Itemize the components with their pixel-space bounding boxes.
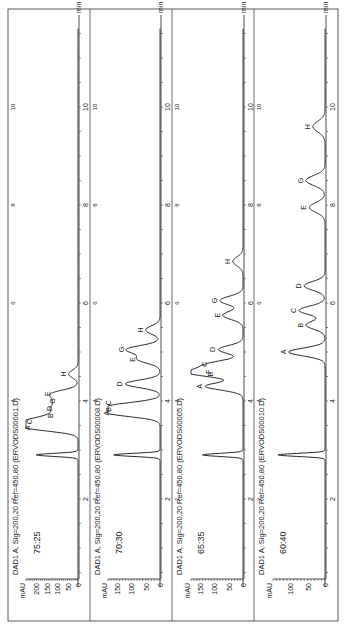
x-tick-label: 8 [329,203,336,207]
x-tick-label: 10 [82,103,89,111]
panel-title: DAD1 A, Sig=200,20 Ref=450,80 (ERVODS000… [175,397,184,575]
y-tick-label: 50 [305,583,312,591]
x-tick-label: 4 [82,399,89,403]
peak-label: E [129,357,136,362]
y-tick-label: 150 [44,583,51,595]
chromatogram-trace [108,29,160,588]
peak-label: A [280,349,287,354]
x-tick-label: 10 [164,103,171,111]
chromatogram-panel-3: 050100150mAU224466881010minABFCDEGHDAD1 … [172,2,254,621]
y-tick-label: 0 [157,583,164,587]
x-tick-label: 10 [247,103,254,111]
chromatogram-trace [191,29,243,588]
peak-label: E [44,391,51,396]
x-tick-label: 8 [164,203,171,207]
chromatogram-panel-4: 050100mAU224466881010minABCDEGHDAD1 A, S… [254,2,336,621]
peak-label: D [209,347,216,352]
svg-text:8: 8 [92,203,98,207]
y-axis-label: mAU [101,583,108,599]
y-tick-label: 150 [114,583,121,595]
peak-label: H [60,372,67,377]
chromatogram-trace [278,29,325,588]
x-tick-label: 6 [82,301,89,305]
peak-label: C [290,308,297,313]
x-axis-unit: min [322,2,329,13]
y-tick-label: 100 [211,583,218,595]
x-tick-label: 2 [164,497,171,501]
svg-text:10: 10 [256,103,262,110]
peak-label: D [46,406,53,411]
peak-label: H [137,327,144,332]
x-tick-label: 8 [82,203,89,207]
peak-label: G [297,178,304,183]
svg-text:10: 10 [174,103,180,110]
x-axis-unit: min [75,2,82,13]
y-tick-label: 50 [143,583,150,591]
x-tick-label: 6 [329,301,336,305]
x-tick-label: 2 [82,497,89,501]
chromatogram-panel-1: 050100150200mAU224466881010minACBDGEHDAD… [10,2,89,599]
solvent-ratio-label: 60:40 [278,531,288,554]
y-tick-label: 0 [75,583,82,587]
x-axis-unit: min [240,2,247,13]
solvent-ratio-label: 75:25 [32,531,42,554]
y-axis-label: mAU [19,583,26,599]
peak-label: H [304,124,311,129]
y-tick-label: 100 [287,583,294,595]
solvent-ratio-label: 70:30 [114,531,124,554]
peak-label: F [205,369,212,373]
peak-label: C [26,419,33,424]
peak-label: H [224,259,231,264]
peak-label: D [295,283,302,288]
y-tick-label: 0 [240,583,247,587]
y-axis-label: mAU [266,583,273,599]
svg-text:8: 8 [256,203,262,207]
x-tick-label: 8 [247,203,254,207]
svg-text:8: 8 [174,203,180,207]
y-tick-label: 0 [322,583,329,587]
peak-label: B [297,322,304,327]
peak-label: D [116,381,123,386]
svg-text:6: 6 [92,301,98,305]
chromatogram-trace [26,29,78,588]
svg-text:10: 10 [10,103,16,110]
x-axis-unit: min [157,2,164,13]
panel-title: DAD1 A, Sig=200,20 Ref=450,80 (ERVODS000… [11,397,20,575]
y-tick-label: 100 [54,583,61,595]
y-tick-label: 200 [33,583,40,595]
chromatogram-panel-2: 050100150mAU224466881010minAB,CDEGHDAD1 … [90,2,171,621]
svg-text:6: 6 [10,301,16,305]
x-tick-label: 6 [164,301,171,305]
x-tick-label: 4 [329,399,336,403]
peak-label: G [211,298,218,303]
svg-text:10: 10 [92,103,98,110]
chromatogram-figure: 050100150200mAU224466881010minACBDGEHDAD… [0,0,351,629]
figure-border [8,9,338,621]
peak-label: A [196,384,203,389]
svg-text:6: 6 [174,301,180,305]
svg-text:8: 8 [10,203,16,207]
peak-label: A [24,425,31,430]
y-tick-label: 50 [226,583,233,591]
peak-label: G [118,347,125,352]
y-tick-label: 100 [128,583,135,595]
y-axis-label: mAU [184,583,191,599]
y-tick-label: 150 [197,583,204,595]
x-tick-label: 4 [164,399,171,403]
x-tick-label: 10 [329,103,336,111]
peak-label: B,C [105,400,112,412]
peak-label: E [300,205,307,210]
peak-label: C [201,362,208,367]
x-tick-label: 4 [247,399,254,403]
x-tick-label: 2 [329,497,336,501]
y-tick-label: 50 [65,583,72,591]
peak-label: B [47,413,54,418]
panel-title: DAD1 A, Sig=200,20 Ref=450,80 (ERVODS000… [257,397,266,575]
peak-label: E [214,313,221,318]
chromatogram-stack: 050100150200mAU224466881010minACBDGEHDAD… [0,0,351,629]
solvent-ratio-label: 65:35 [196,531,206,554]
peak-label: G [49,398,56,403]
x-tick-label: 6 [247,301,254,305]
rotated-figure: 050100150200mAU224466881010minACBDGEHDAD… [0,0,351,629]
x-tick-label: 2 [247,497,254,501]
